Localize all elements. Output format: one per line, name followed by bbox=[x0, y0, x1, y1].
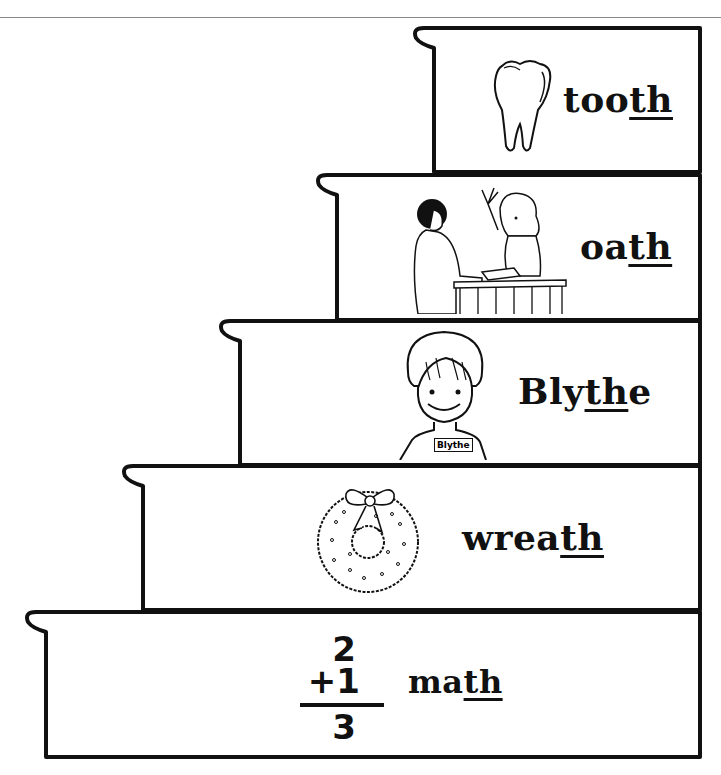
word-prefix: too bbox=[563, 78, 629, 120]
word-prefix: Bly bbox=[518, 370, 585, 412]
word-oath: oath bbox=[580, 225, 672, 267]
math-sum: 3 bbox=[332, 710, 356, 744]
math-addend: +1 bbox=[308, 664, 360, 698]
word-tooth: tooth bbox=[563, 78, 673, 120]
nametag: Blythe bbox=[434, 438, 473, 452]
th-digraph: th bbox=[585, 370, 629, 412]
tooth-icon bbox=[490, 58, 560, 158]
word-suffix: e bbox=[628, 370, 651, 412]
word-blythe: Blythe bbox=[518, 370, 652, 412]
word-math: math bbox=[408, 663, 503, 701]
word-prefix: oa bbox=[580, 225, 628, 267]
th-digraph: th bbox=[464, 663, 503, 701]
th-digraph: th bbox=[560, 516, 604, 558]
swearing-oath-icon bbox=[408, 186, 573, 314]
th-digraph: th bbox=[629, 78, 673, 120]
word-wreath: wreath bbox=[462, 516, 604, 558]
addition-problem-icon: 2 +1 3 bbox=[300, 632, 384, 742]
th-digraph: th bbox=[628, 225, 672, 267]
wreath-icon bbox=[310, 482, 425, 594]
word-prefix: ma bbox=[408, 663, 464, 701]
word-prefix: wrea bbox=[462, 516, 560, 558]
